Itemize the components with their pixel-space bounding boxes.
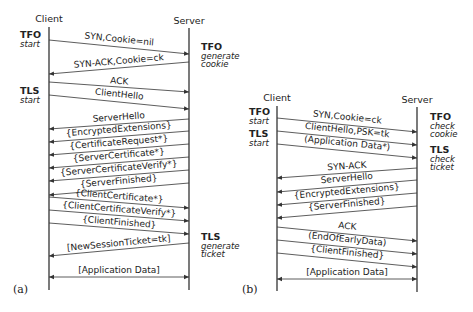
svg-text:[Application Data]: [Application Data] xyxy=(306,267,388,277)
client-header: Client xyxy=(35,13,63,24)
message-application-data: [Application Data] xyxy=(49,265,189,277)
svg-text:{ClientFinished}: {ClientFinished} xyxy=(82,214,157,230)
message-early-application-data: (Application Data*) xyxy=(277,134,417,158)
annotation-tls-start: TLS start xyxy=(20,85,40,105)
svg-text:cookie: cookie xyxy=(430,129,458,139)
message-client-finished: {ClientFinished} xyxy=(277,243,417,267)
client-header: Client xyxy=(263,92,291,103)
svg-text:start: start xyxy=(20,39,40,49)
annotation-tfo-check-cookie: TFO check cookie xyxy=(430,111,458,139)
svg-text:ServerHello: ServerHello xyxy=(320,171,373,185)
svg-text:start: start xyxy=(20,95,40,105)
message-new-session-ticket: [NewSessionTicket=tk] xyxy=(49,233,189,256)
diagram-b: Client Server TFO start TFO check cookie… xyxy=(242,92,458,296)
annotation-tfo-start: TFO start xyxy=(20,29,41,49)
svg-text:cookie: cookie xyxy=(201,59,229,69)
svg-text:ticket: ticket xyxy=(201,249,226,259)
message-client-hello: ClientHello xyxy=(49,87,189,109)
svg-text:ClientHello: ClientHello xyxy=(94,87,144,102)
caption-a: (a) xyxy=(13,283,28,296)
svg-text:[Application Data]: [Application Data] xyxy=(78,265,160,275)
annotation-tls-check-ticket: TLS check ticket xyxy=(430,144,456,172)
server-header: Server xyxy=(173,15,204,26)
message-syn-cookie-nil: SYN,Cookie=nil xyxy=(49,31,189,54)
svg-text:SYN-ACK: SYN-ACK xyxy=(327,160,368,173)
annotation-tls-start: TLS start xyxy=(249,128,269,148)
svg-text:SYN-ACK,Cookie=ck: SYN-ACK,Cookie=ck xyxy=(73,52,165,70)
tls-tfo-handshake-figure: Client Server TFO start TFO generate coo… xyxy=(0,0,473,312)
caption-b: (b) xyxy=(242,283,258,296)
svg-text:start: start xyxy=(249,116,269,126)
annotation-tls-generate-ticket: TLS generate ticket xyxy=(201,231,240,259)
message-application-data: [Application Data] xyxy=(277,267,417,279)
annotation-tfo-start: TFO start xyxy=(249,106,270,126)
annotation-tfo-generate-cookie: TFO generate cookie xyxy=(201,41,240,69)
svg-text:ACK: ACK xyxy=(338,220,358,232)
svg-text:ticket: ticket xyxy=(430,162,455,172)
server-header: Server xyxy=(401,94,432,105)
svg-text:start: start xyxy=(249,138,269,148)
svg-text:ACK: ACK xyxy=(110,75,130,86)
diagram-a: Client Server TFO start TFO generate coo… xyxy=(13,13,240,296)
message-syn-ack-cookie: SYN-ACK,Cookie=ck xyxy=(49,52,189,74)
